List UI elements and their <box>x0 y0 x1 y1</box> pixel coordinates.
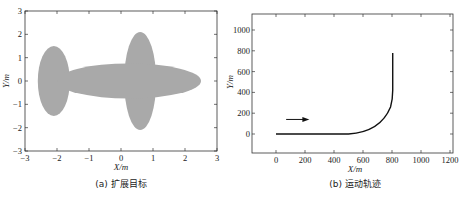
y-tick-label: 200 <box>237 108 250 118</box>
x-tick-label: 200 <box>299 155 312 165</box>
right-chart: 02004006008001000120010008006004002000 <box>233 14 459 165</box>
x-tick-label: 1000 <box>413 155 430 165</box>
y-tick-label: 1 <box>18 53 22 63</box>
x-tick-label: 1200 <box>442 155 459 165</box>
y-tick-label: 400 <box>237 87 250 97</box>
figure-canvas: −3−2−101233210−1−2−3 0200400600800100012… <box>0 0 466 201</box>
y-tick-label: 0 <box>18 76 22 86</box>
x-tick-label: 2 <box>183 153 187 163</box>
x-tick-label: 1 <box>151 153 155 163</box>
x-tick-label: 400 <box>328 155 341 165</box>
y-tick-label: −3 <box>13 146 22 156</box>
y-tick-label: 1000 <box>233 25 250 35</box>
direction-arrow-icon <box>302 117 309 122</box>
x-tick-label: 800 <box>386 155 399 165</box>
trajectory-line <box>276 53 393 134</box>
plot-frame <box>252 14 453 153</box>
x-tick-label: −1 <box>84 153 93 163</box>
x-tick-label: 600 <box>357 155 370 165</box>
y-tick-label: 800 <box>237 46 250 56</box>
y-tick-label: −1 <box>13 99 22 109</box>
y-tick-label: 2 <box>18 29 22 39</box>
y-tick-label: 3 <box>18 6 22 16</box>
figure: −3−2−101233210−1−2−3 0200400600800100012… <box>0 0 466 201</box>
x-tick-label: 3 <box>215 153 219 163</box>
x-tick-label: 0 <box>119 153 123 163</box>
x-tick-label: −2 <box>52 153 61 163</box>
left-chart: −3−2−101233210−1−2−3 <box>13 6 219 163</box>
y-tick-label: 600 <box>237 67 250 77</box>
y-tick-label: −2 <box>13 123 22 133</box>
x-tick-label: 0 <box>274 155 278 165</box>
target-ellipse <box>57 64 201 99</box>
y-tick-label: 0 <box>246 129 250 139</box>
